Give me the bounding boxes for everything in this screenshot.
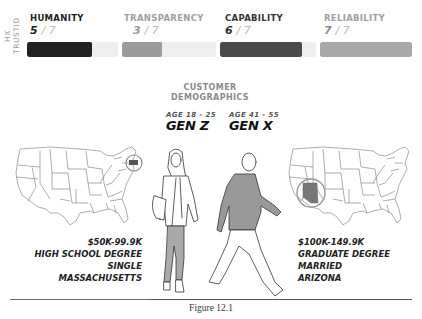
marital-status: SINGLE — [20, 260, 142, 272]
gen-x-details: $100K-149.9K GRADUATE DEGREE MARRIED ARI… — [298, 236, 420, 284]
metric-score: 6 / 7 — [225, 24, 283, 37]
humanity-bar-fill — [27, 42, 92, 57]
reliability-bar — [320, 42, 412, 57]
education: HIGH SCHOOL DEGREE — [20, 248, 142, 260]
ground-line-right — [150, 299, 412, 300]
education: GRADUATE DEGREE — [298, 248, 420, 260]
reliability-bar-fill — [320, 42, 412, 57]
capability-bar — [220, 42, 316, 57]
title-line-1: CUSTOMER — [150, 83, 270, 93]
metric-humanity: HUMANITY 5 / 7 — [30, 13, 84, 37]
demographics-title: CUSTOMER DEMOGRAPHICS — [150, 83, 270, 103]
transparency-bar-fill — [122, 42, 162, 57]
persona-gen-x-header: AGE 41 - 55 GEN X — [229, 111, 279, 133]
score-value: 6 — [225, 24, 233, 37]
humanity-bar — [27, 42, 118, 57]
transparency-bar — [122, 42, 216, 57]
score-value: 7 — [324, 24, 332, 37]
hx-trustid-label: HX TRUSTID — [3, 12, 17, 60]
metric-score: 7 / 7 — [324, 24, 385, 37]
metric-score: 3 / 7 — [124, 24, 204, 37]
score-denominator: / 7 — [237, 24, 251, 37]
us-outline — [16, 147, 136, 225]
income: $50K-99.9K — [20, 236, 142, 248]
marital-status: MARRIED — [298, 260, 420, 272]
location: ARIZONA — [298, 272, 420, 284]
generation-label: GEN Z — [166, 119, 216, 133]
cutoff-heading-remnant — [60, 0, 360, 3]
metric-name: CAPABILITY — [225, 13, 283, 23]
metric-reliability: RELIABILITY 7 / 7 — [324, 13, 385, 37]
capability-bar-fill — [220, 42, 302, 57]
location: MASSACHUSETTS — [20, 272, 142, 284]
gen-x-person-illustration — [205, 150, 285, 300]
metric-name: TRANSPARENCY — [124, 13, 204, 23]
metric-name: RELIABILITY — [324, 13, 385, 23]
metric-score: 5 / 7 — [30, 24, 84, 37]
score-value: 3 — [133, 24, 141, 37]
gen-z-person-illustration — [150, 148, 210, 298]
metric-transparency: TRANSPARENCY 3 / 7 — [124, 13, 204, 37]
gen-z-details: $50K-99.9K HIGH SCHOOL DEGREE SINGLE MAS… — [20, 236, 142, 284]
title-line-2: DEMOGRAPHICS — [150, 93, 270, 103]
metric-name: HUMANITY — [30, 13, 84, 23]
score-denominator: / 7 — [42, 24, 56, 37]
metric-capability: CAPABILITY 6 / 7 — [225, 13, 283, 37]
persona-gen-z-header: AGE 18 - 25 GEN Z — [166, 111, 216, 133]
score-denominator: / 7 — [336, 24, 350, 37]
income: $100K-149.9K — [298, 236, 420, 248]
figure-caption: Figure 12.1 — [0, 303, 422, 313]
score-value: 5 — [30, 24, 38, 37]
ground-line-left — [10, 299, 150, 300]
score-denominator: / 7 — [145, 24, 159, 37]
us-map-right — [283, 143, 418, 228]
generation-label: GEN X — [229, 119, 279, 133]
us-map-left — [10, 143, 145, 228]
